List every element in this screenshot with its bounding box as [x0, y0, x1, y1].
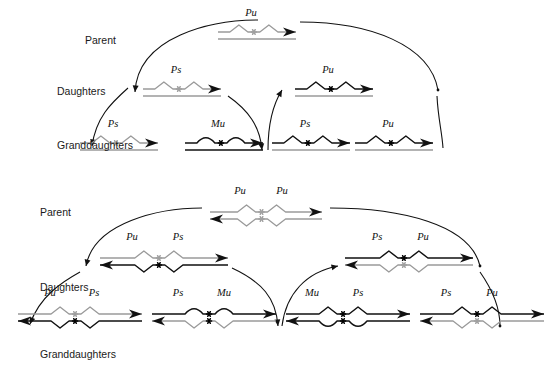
lineage-arc [480, 272, 501, 327]
top-strand [345, 251, 473, 258]
gene-label: Ps [440, 287, 452, 298]
gene-label: Pu [125, 231, 138, 242]
panel-bottom: PuPuPuPsPsPuPuPsPsMuMuPsPsPuParentDaught… [0, 186, 556, 373]
gene-label: Ps [371, 231, 383, 242]
dna-molecule: Mu [185, 118, 263, 150]
gene-label: Ps [170, 64, 182, 75]
lineage-arc [300, 22, 439, 91]
bottom-strand [152, 321, 276, 328]
bottom-strand [286, 321, 410, 326]
arc-arrowhead-icon [331, 264, 338, 270]
gene-label: Pu [416, 231, 429, 242]
top-strand [152, 309, 276, 314]
gene-label: Pu [233, 185, 246, 196]
dna-molecule: Ps [143, 64, 221, 96]
lineage-arc [437, 96, 443, 148]
arc-path [135, 20, 258, 92]
bottom-strand [18, 321, 142, 328]
lineage-arc [232, 268, 280, 326]
bottom-strand [100, 265, 228, 272]
bottom-strand [420, 321, 544, 328]
lineage-arc [85, 208, 202, 266]
arc-arrowhead-icon [85, 259, 91, 266]
generation-row-label: Granddaughters [57, 139, 133, 151]
arc-path [268, 90, 282, 150]
dna-molecule: Pu [295, 64, 373, 96]
gene-label: Mu [210, 118, 225, 129]
gene-label: Mu [304, 287, 319, 298]
generation-row-label: Granddaughters [40, 348, 116, 360]
replication-diagram: PuPsPuPsMuPsPuParentDaughtersGranddaught… [0, 0, 556, 373]
dna-molecule: Pu [218, 7, 296, 39]
top-strand [100, 251, 228, 258]
top-strand [210, 205, 322, 212]
bottom-strand [345, 265, 473, 272]
panel-top-graphics: PuPsPuPsMuPsPuParentDaughtersGranddaught… [0, 0, 556, 186]
arc-arrowhead-icon [274, 319, 280, 326]
lineage-arc [30, 272, 80, 324]
gene-label: Pu [485, 287, 498, 298]
gene-label: Ps [352, 287, 364, 298]
gene-label: Ps [88, 287, 100, 298]
top-strand [185, 138, 263, 143]
arc-path [232, 268, 278, 326]
bottom-strand [210, 219, 322, 226]
lineage-arc [268, 90, 282, 150]
dna-molecule: PuPs [100, 231, 228, 272]
arc-path [437, 96, 443, 148]
dna-molecule: MuPs [286, 287, 410, 326]
arc-arrowhead-icon [133, 85, 139, 92]
panel-bottom-graphics: PuPuPuPsPsPuPuPsPsMuMuPsPsPuParentDaught… [0, 186, 556, 373]
dna-molecule: PsMu [152, 287, 276, 328]
panel-top: PuPsPuPsMuPsPuParentDaughtersGranddaught… [0, 0, 556, 186]
arc-path [300, 22, 438, 90]
arc-path [30, 272, 80, 324]
arc-path [480, 272, 500, 326]
dna-molecule: Ps [272, 118, 350, 150]
gene-label: Pu [275, 185, 288, 196]
generation-row-label: Daughters [40, 281, 88, 293]
gene-label: Ps [172, 287, 184, 298]
gene-label: Pu [321, 64, 334, 75]
top-strand [420, 307, 544, 314]
dna-molecule: PsPu [420, 287, 544, 328]
dna-molecule: PuPu [210, 185, 322, 226]
arc-path [86, 208, 202, 266]
gene-label: Pu [244, 7, 257, 18]
top-strand [286, 307, 410, 314]
arc-endpoint-dot-icon [479, 265, 482, 268]
gene-label: Ps [107, 118, 119, 129]
dna-molecule: PuPs [18, 287, 142, 328]
arc-endpoint-dot-icon [499, 325, 502, 328]
gene-label: Ps [299, 118, 311, 129]
gene-label: Pu [381, 118, 394, 129]
gene-label: Ps [172, 231, 184, 242]
dna-molecule: PsPu [345, 231, 473, 272]
gene-label: Mu [216, 287, 231, 298]
generation-row-label: Daughters [57, 85, 105, 97]
generation-row-label: Parent [85, 34, 116, 46]
generation-row-label: Parent [40, 206, 71, 218]
arc-endpoint-dot-icon [437, 89, 440, 92]
dna-molecule: Pu [355, 118, 433, 150]
lineage-arc [133, 20, 258, 92]
